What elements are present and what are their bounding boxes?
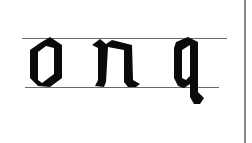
letter-q: [174, 37, 204, 104]
letter-n: [92, 39, 140, 87]
letter-o: [30, 37, 62, 87]
letterforms: [0, 0, 252, 143]
